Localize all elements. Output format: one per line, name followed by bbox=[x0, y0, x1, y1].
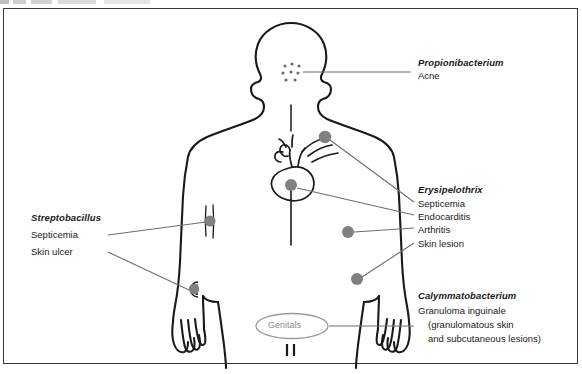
heart-illustration bbox=[271, 135, 338, 201]
label-calymmatobacterium-detail-line1: (granulomatous skin bbox=[428, 319, 514, 330]
label-erysipelothrix-genus: Erysipelothrix bbox=[418, 184, 483, 195]
leader-strepto-skin-ulcer bbox=[108, 252, 189, 290]
leader-lines bbox=[108, 72, 414, 326]
right-arm-upper-marker bbox=[342, 226, 354, 238]
infection-markers bbox=[189, 131, 363, 294]
face-acne-dots bbox=[281, 62, 300, 81]
left-arm-upper-marker bbox=[205, 216, 216, 227]
genitals-label: Genitals bbox=[268, 320, 301, 330]
leader-endocarditis bbox=[297, 188, 414, 215]
label-streptobacillus-disease-septicemia: Septicemia bbox=[31, 229, 78, 240]
body-legs bbox=[203, 105, 379, 302]
leader-skin-lesion bbox=[362, 243, 414, 277]
label-propionibacterium-disease-acne: Acne bbox=[418, 70, 440, 81]
label-erysipelothrix-disease-arthritis: Arthritis bbox=[418, 224, 450, 235]
left-arm-ulcer-marker bbox=[189, 284, 199, 294]
label-erysipelothrix-disease-endocarditis: Endocarditis bbox=[418, 211, 470, 222]
label-erysipelothrix-disease-skin-lesion: Skin lesion bbox=[418, 238, 464, 249]
label-streptobacillus-disease-skin-ulcer: Skin ulcer bbox=[31, 246, 73, 257]
label-calymmatobacterium-disease-granuloma: Granuloma inguinale bbox=[418, 305, 506, 316]
leader-septicemia bbox=[330, 140, 414, 202]
label-propionibacterium-genus: Propionibacterium bbox=[418, 57, 504, 68]
leader-arthritis bbox=[354, 228, 414, 232]
label-calymmatobacterium-detail-line2: and subcutaneous lesions) bbox=[428, 333, 541, 344]
genitals-marker-glyph bbox=[287, 344, 294, 356]
heart-aorta-marker bbox=[319, 131, 331, 143]
leader-strepto-septicemia bbox=[108, 222, 206, 235]
label-streptobacillus-genus: Streptobacillus bbox=[31, 212, 101, 223]
label-calymmatobacterium-genus: Calymmatobacterium bbox=[418, 290, 516, 301]
right-arm-lower-marker bbox=[351, 273, 363, 285]
label-erysipelothrix-disease-septicemia: Septicemia bbox=[418, 198, 465, 209]
heart-ventricle-marker bbox=[285, 179, 297, 191]
body-outline bbox=[172, 23, 291, 352]
body-leg-outlines bbox=[218, 302, 364, 368]
